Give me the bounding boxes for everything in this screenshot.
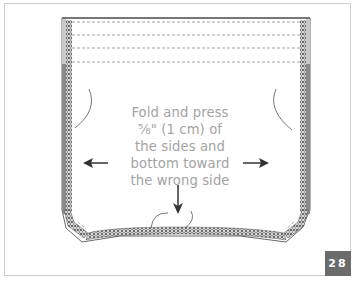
instruction-line-4: bottom toward — [110, 155, 250, 172]
instruction-line-1: Fold and press — [110, 104, 250, 121]
instruction-line-5: the wrong side — [110, 172, 250, 189]
serged-edge-left — [66, 20, 72, 212]
instruction-text: Fold and press ⅝" (1 cm) of the sides an… — [110, 104, 250, 189]
serged-edge-right — [300, 20, 306, 212]
instruction-line-2: ⅝" (1 cm) of — [110, 121, 250, 138]
instruction-line-3: the sides and — [110, 138, 250, 155]
step-number-badge: 28 — [325, 251, 351, 276]
